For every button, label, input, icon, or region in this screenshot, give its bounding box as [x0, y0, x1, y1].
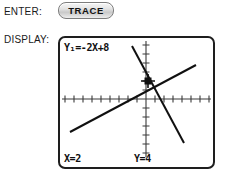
enter-label: ENTER: [4, 6, 42, 17]
trace-key-button[interactable]: TRACE [58, 2, 114, 19]
y-readout: Y=4 [134, 153, 151, 164]
x-readout: X=2 [64, 153, 81, 164]
calculator-screen: Y₁=-2X+8 [58, 36, 215, 169]
graph-plot [60, 38, 213, 167]
trace-key-label: TRACE [68, 5, 104, 16]
display-label: DISPLAY: [4, 34, 49, 45]
